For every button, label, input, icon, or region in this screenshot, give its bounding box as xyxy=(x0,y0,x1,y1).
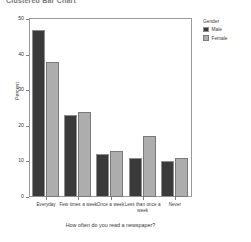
bar-male[interactable] xyxy=(161,161,174,197)
y-tick-mark xyxy=(26,197,29,198)
bar-male[interactable] xyxy=(96,154,109,197)
x-category-label: Never xyxy=(156,202,194,208)
y-tick-label: 10 xyxy=(18,157,24,163)
legend-swatch-female-icon xyxy=(203,35,209,41)
bar-group xyxy=(94,19,126,197)
y-tick-label: 40 xyxy=(18,51,24,57)
legend-label-female: Female xyxy=(212,36,228,41)
bar-female[interactable] xyxy=(78,112,91,197)
legend-title: Gender xyxy=(203,19,247,24)
y-tick-label: 20 xyxy=(18,122,24,128)
bar-group xyxy=(159,19,191,197)
legend-item-male[interactable]: Male xyxy=(203,27,247,33)
bar-female[interactable] xyxy=(143,136,156,197)
bar-group xyxy=(127,19,159,197)
x-tick-mark xyxy=(143,197,144,200)
x-tick-mark xyxy=(46,197,47,200)
chart-container: Clustered Bar Chart Percent 01020304050 … xyxy=(0,0,251,242)
x-tick-mark xyxy=(111,197,112,200)
x-axis-title: How often do you read a newspaper? xyxy=(29,222,192,228)
y-tick-label: 0 xyxy=(21,193,24,199)
bar-group xyxy=(30,19,62,197)
legend-label-male: Male xyxy=(212,27,222,32)
bar-female[interactable] xyxy=(46,62,59,197)
x-tick-mark xyxy=(175,197,176,200)
plot-area xyxy=(30,19,191,197)
y-tick-label: 30 xyxy=(18,86,24,92)
legend-item-female[interactable]: Female xyxy=(203,35,247,41)
bar-male[interactable] xyxy=(32,30,45,197)
bar-male[interactable] xyxy=(64,115,77,197)
y-tick-label: 50 xyxy=(18,15,24,21)
bar-male[interactable] xyxy=(129,158,142,197)
bar-female[interactable] xyxy=(110,151,123,197)
bar-female[interactable] xyxy=(175,158,188,197)
chart-title: Clustered Bar Chart xyxy=(6,0,76,4)
bar-group xyxy=(62,19,94,197)
x-tick-mark xyxy=(78,197,79,200)
legend: Gender Male Female xyxy=(203,19,247,44)
legend-swatch-male-icon xyxy=(203,27,209,33)
